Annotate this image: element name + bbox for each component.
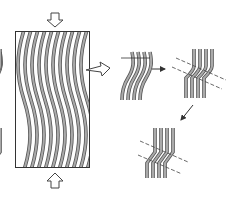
- compression-arrow-bottom-icon: [47, 173, 63, 188]
- kink-band-diagram: [0, 0, 237, 199]
- panel-wavy-bundle: [0, 30, 93, 170]
- compression-arrow-top-icon: [47, 13, 63, 27]
- step-arrow-2-icon: [181, 105, 193, 120]
